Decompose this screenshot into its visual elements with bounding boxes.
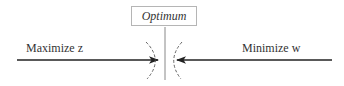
optimum-box: Optimum — [131, 6, 197, 26]
optimum-label: Optimum — [142, 9, 187, 24]
minimize-label: Minimize w — [242, 41, 300, 56]
maximize-label: Maximize z — [26, 41, 83, 56]
